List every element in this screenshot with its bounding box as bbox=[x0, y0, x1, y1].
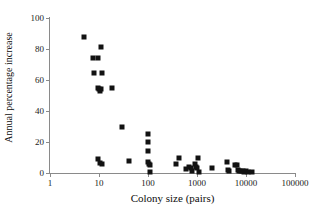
y-axis-title: Annual percentage increase bbox=[0, 0, 18, 195]
data-point bbox=[120, 124, 125, 129]
data-point bbox=[92, 71, 97, 76]
data-point bbox=[99, 45, 104, 50]
scatter-chart-figure: Annual percentage increase 0204060801001… bbox=[0, 0, 323, 215]
y-axis-tick-label: 0 bbox=[40, 169, 45, 178]
x-axis-tick-label: 10000 bbox=[235, 179, 258, 188]
data-point bbox=[197, 170, 202, 175]
data-point bbox=[126, 158, 131, 163]
data-point bbox=[95, 56, 100, 61]
data-point bbox=[177, 156, 182, 161]
data-point bbox=[82, 34, 87, 39]
data-point bbox=[209, 166, 214, 171]
data-point bbox=[196, 156, 201, 161]
x-axis-tick bbox=[295, 173, 296, 177]
data-point bbox=[109, 85, 114, 90]
data-point bbox=[99, 71, 104, 76]
data-point bbox=[146, 132, 151, 137]
data-point bbox=[146, 149, 151, 154]
x-axis-tick-label: 10 bbox=[95, 179, 104, 188]
x-axis-tick bbox=[50, 173, 51, 177]
y-axis-tick bbox=[46, 80, 50, 81]
y-axis-tick-label: 100 bbox=[31, 14, 45, 23]
data-point bbox=[148, 163, 153, 168]
y-axis-tick bbox=[46, 18, 50, 19]
y-axis-tick bbox=[46, 111, 50, 112]
y-axis-tick-label: 40 bbox=[35, 107, 44, 116]
x-axis-tick-label: 1000 bbox=[188, 179, 206, 188]
y-axis-tick bbox=[46, 142, 50, 143]
y-axis-tick-label: 20 bbox=[35, 138, 44, 147]
data-point bbox=[249, 170, 254, 175]
y-axis-tick-label: 80 bbox=[35, 45, 44, 54]
data-point bbox=[146, 140, 151, 145]
x-axis-tick-label: 100000 bbox=[282, 179, 309, 188]
x-axis-title: Colony size (pairs) bbox=[49, 192, 296, 204]
x-axis-tick-label: 100 bbox=[141, 179, 155, 188]
y-axis-tick bbox=[46, 49, 50, 50]
data-point bbox=[99, 161, 104, 166]
x-axis-tick bbox=[99, 173, 100, 177]
data-point bbox=[226, 169, 231, 174]
x-axis-line bbox=[49, 173, 296, 174]
y-axis-tick-label: 60 bbox=[35, 76, 44, 85]
data-point bbox=[99, 86, 104, 91]
data-point bbox=[224, 160, 229, 165]
data-point bbox=[148, 170, 153, 175]
plot-area: 020406080100110100100010000100000 bbox=[50, 18, 295, 173]
data-point bbox=[174, 161, 179, 166]
x-axis-tick-label: 1 bbox=[48, 179, 53, 188]
